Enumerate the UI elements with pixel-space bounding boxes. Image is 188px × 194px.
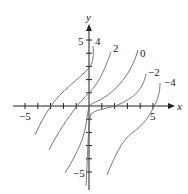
curve-c-2	[49, 52, 111, 150]
curve-label-4: 4	[95, 35, 101, 47]
y-axis-arrow-icon	[86, 24, 92, 31]
x-tick-label-neg5: −5	[19, 110, 31, 122]
curve-label-neg4: −4	[164, 76, 176, 88]
y-tick-label-5: 5	[78, 35, 84, 47]
y-axis-label: y	[85, 11, 91, 23]
curve-label-2: 2	[113, 42, 119, 54]
solution-curves	[35, 46, 160, 186]
x-axis-label: x	[176, 100, 182, 112]
chart: x y −5 5 5 −5 4 2 0 −2 −4	[0, 0, 188, 194]
curve-c-0	[65, 50, 138, 173]
curve-label-neg2: −2	[148, 66, 160, 78]
curve-label-0: 0	[140, 47, 146, 59]
curve-c-neg4	[107, 83, 160, 175]
curve-c-4	[35, 46, 93, 135]
curve-c-neg2	[86, 74, 146, 186]
x-axis-arrow-icon	[168, 103, 175, 109]
y-tick-label-neg5: −5	[73, 167, 85, 179]
